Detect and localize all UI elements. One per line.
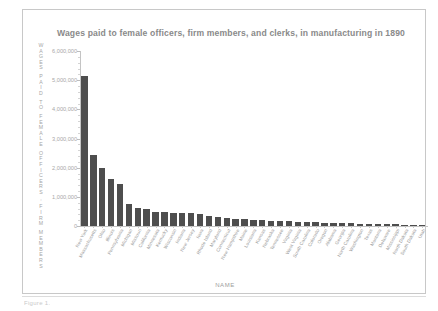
bar-slot: [320, 51, 329, 226]
bar-slot: [133, 51, 142, 226]
y-tick-label: 5,000,000: [52, 77, 77, 83]
bar-slot: [142, 51, 151, 226]
bar-slot: [418, 51, 427, 226]
bar-slot: [293, 51, 302, 226]
x-tick: California: [142, 227, 151, 279]
bar-slot: [284, 51, 293, 226]
bar-slot: [80, 51, 89, 226]
bar-slot: [124, 51, 133, 226]
bar[interactable]: [152, 212, 158, 226]
bar-slot: [356, 51, 365, 226]
y-axis-title: WAGESPAIDTOFEMALEOFFICERS,FIRMMEMBERS: [35, 43, 47, 279]
bar-slot: [400, 51, 409, 226]
x-tick: Rhode Island: [204, 227, 213, 279]
bar-slot: [267, 51, 276, 226]
bar-slot: [107, 51, 116, 226]
x-tick: Maine: [240, 227, 249, 279]
bar[interactable]: [215, 217, 221, 226]
bar-slot: [98, 51, 107, 226]
bar[interactable]: [241, 219, 247, 226]
page-divider: [22, 296, 426, 297]
bar-slot: [311, 51, 320, 226]
bar[interactable]: [126, 204, 132, 226]
bar-slot: [151, 51, 160, 226]
bar-slot: [213, 51, 222, 226]
y-axis-title-char: M: [39, 221, 44, 227]
bar-slot: [160, 51, 169, 226]
bar-slot: [178, 51, 187, 226]
bar-slot: [329, 51, 338, 226]
y-axis-title-char: S: [39, 65, 43, 71]
x-tick: Oregon: [320, 227, 329, 279]
bar-slot: [187, 51, 196, 226]
bar-slot: [249, 51, 258, 226]
x-axis-labels: New YorkMassachusettsOhioIllinoisPennsyl…: [80, 227, 427, 279]
x-tick: Texas: [365, 227, 374, 279]
bar-slot: [258, 51, 267, 226]
x-tick: Michigan: [124, 227, 133, 279]
bar-slot: [382, 51, 391, 226]
x-tick-label: Utah: [418, 228, 427, 239]
figure-caption: Figure 1.: [24, 300, 50, 310]
x-tick: Pennsylvania: [116, 227, 125, 279]
y-tick-label: 6,000,000: [52, 48, 77, 54]
y-tick-label: 0: [74, 223, 77, 229]
bar-slot: [391, 51, 400, 226]
bar-slot: [347, 51, 356, 226]
x-axis-title: NAME: [23, 282, 427, 288]
x-tick: Louisiana: [249, 227, 258, 279]
bar[interactable]: [197, 214, 203, 226]
bar[interactable]: [206, 216, 212, 226]
y-axis-title-char: ,: [40, 196, 42, 202]
y-tick-label: 3,000,000: [52, 136, 77, 142]
bar-slot: [240, 51, 249, 226]
bar-slot: [373, 51, 382, 226]
y-tick-label: 1,000,000: [52, 194, 77, 200]
bar-slot: [169, 51, 178, 226]
bar[interactable]: [188, 213, 194, 226]
chart-frame: Wages paid to female officers, firm memb…: [22, 9, 426, 294]
bar[interactable]: [117, 184, 123, 226]
bar[interactable]: [232, 219, 238, 226]
x-tick: Indiana: [178, 227, 187, 279]
bar-slot: [204, 51, 213, 226]
x-tick: Maryland: [213, 227, 222, 279]
x-tick: South Carolina: [302, 227, 311, 279]
bar[interactable]: [108, 179, 114, 226]
bar-slot: [116, 51, 125, 226]
bar-series: [80, 51, 427, 226]
x-tick: Wisconsin: [169, 227, 178, 279]
bar[interactable]: [179, 213, 185, 226]
bar-slot: [302, 51, 311, 226]
y-axis-title-char: S: [39, 264, 43, 270]
x-tick: Washington: [356, 227, 365, 279]
x-tick: Kentucky: [160, 227, 169, 279]
bar[interactable]: [161, 212, 167, 226]
bar-slot: [338, 51, 347, 226]
bar[interactable]: [81, 76, 87, 226]
x-tick: Utah: [418, 227, 427, 279]
bar[interactable]: [90, 155, 96, 226]
x-tick: Massachusetts: [89, 227, 98, 279]
bar[interactable]: [170, 213, 176, 226]
bar-slot: [222, 51, 231, 226]
x-tick: Nebraska: [267, 227, 276, 279]
x-tick: Tennessee: [276, 227, 285, 279]
bar[interactable]: [99, 168, 105, 226]
bar-slot: [89, 51, 98, 226]
x-tick: New Jersey: [187, 227, 196, 279]
x-tick: Missouri: [133, 227, 142, 279]
bar[interactable]: [224, 218, 230, 226]
bar-slot: [196, 51, 205, 226]
x-tick: New Hampshire: [231, 227, 240, 279]
bar[interactable]: [143, 209, 149, 226]
x-tick: Colorado: [311, 227, 320, 279]
x-tick: Minnesota: [151, 227, 160, 279]
y-axis-title-char: O: [39, 105, 43, 111]
y-tick-label: 2,000,000: [52, 165, 77, 171]
y-axis-title-char: D: [39, 91, 43, 97]
x-tick: Montana: [373, 227, 382, 279]
bar[interactable]: [135, 208, 141, 226]
bar-slot: [409, 51, 418, 226]
bar-slot: [276, 51, 285, 226]
